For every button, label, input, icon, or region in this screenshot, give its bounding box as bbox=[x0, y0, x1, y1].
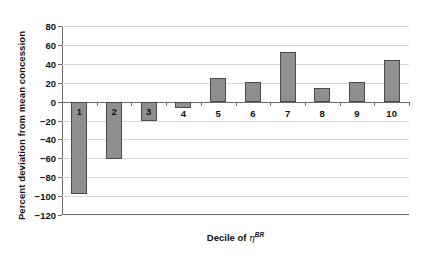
bar bbox=[280, 52, 296, 102]
bar bbox=[384, 60, 400, 102]
x-tick-mark bbox=[236, 102, 237, 106]
y-tick-label: −40 bbox=[40, 134, 56, 145]
y-tick-mark bbox=[58, 196, 62, 197]
x-tick-label: 5 bbox=[215, 108, 220, 119]
y-tick-label: −60 bbox=[40, 153, 56, 164]
x-tick-label: 9 bbox=[354, 108, 359, 119]
y-tick-mark bbox=[58, 158, 62, 159]
bar bbox=[314, 88, 330, 101]
y-tick-label: −20 bbox=[40, 115, 56, 126]
y-tick-label: −100 bbox=[35, 191, 56, 202]
x-tick-mark bbox=[97, 102, 98, 106]
bar bbox=[349, 82, 365, 102]
x-tick-mark bbox=[305, 102, 306, 106]
y-tick-label: −80 bbox=[40, 172, 56, 183]
gridline bbox=[62, 196, 409, 197]
bar bbox=[245, 82, 261, 102]
x-tick-mark bbox=[270, 102, 271, 106]
x-tick-label: 8 bbox=[320, 108, 325, 119]
gridline bbox=[62, 64, 409, 65]
x-tick-mark bbox=[166, 102, 167, 106]
gridline bbox=[62, 26, 409, 27]
x-tick-label: 7 bbox=[285, 108, 290, 119]
plot-area: 806040200−20−40−60−80−100−120 1234567891… bbox=[62, 26, 409, 215]
bar bbox=[71, 102, 87, 195]
bar bbox=[210, 78, 226, 102]
y-tick-label: 40 bbox=[45, 58, 56, 69]
y-tick-mark bbox=[58, 26, 62, 27]
x-tick-mark bbox=[409, 102, 410, 106]
bar-chart-figure: Percent deviation from mean concession 8… bbox=[0, 0, 426, 258]
y-tick-label: 0 bbox=[51, 96, 56, 107]
y-tick-mark bbox=[58, 121, 62, 122]
y-tick-label: 60 bbox=[45, 39, 56, 50]
x-axis-title-text: Decile of bbox=[207, 232, 249, 243]
x-axis-title: Decile of ηBR bbox=[62, 231, 409, 243]
y-tick-mark bbox=[58, 83, 62, 84]
y-tick-mark bbox=[58, 177, 62, 178]
y-tick-mark bbox=[58, 215, 62, 216]
x-tick-label: 10 bbox=[386, 108, 397, 119]
gridline bbox=[62, 45, 409, 46]
y-tick-mark bbox=[58, 45, 62, 46]
x-tick-mark bbox=[62, 102, 63, 106]
x-axis-title-superscript: BR bbox=[255, 231, 264, 238]
x-tick-mark bbox=[131, 102, 132, 106]
x-axis-bottom-line bbox=[62, 214, 409, 215]
x-tick-label: 6 bbox=[250, 108, 255, 119]
y-tick-label: 80 bbox=[45, 21, 56, 32]
x-tick-mark bbox=[201, 102, 202, 106]
bar bbox=[106, 102, 122, 160]
x-tick-mark bbox=[374, 102, 375, 106]
x-tick-label: 4 bbox=[181, 108, 186, 119]
y-tick-mark bbox=[58, 64, 62, 65]
bar bbox=[141, 102, 157, 122]
gridline bbox=[62, 177, 409, 178]
y-tick-mark bbox=[58, 139, 62, 140]
bar bbox=[175, 102, 191, 109]
x-tick-mark bbox=[340, 102, 341, 106]
y-tick-label: 20 bbox=[45, 77, 56, 88]
y-tick-label: −120 bbox=[35, 210, 56, 221]
y-axis-title: Percent deviation from mean concession bbox=[16, 16, 27, 236]
